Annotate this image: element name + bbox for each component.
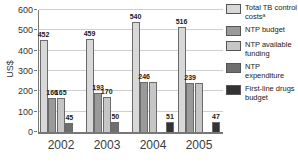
- y-tick-mark-400: [34, 50, 37, 51]
- bar-ntp-expenditure-2002: [65, 123, 73, 132]
- x-axis-label-2002: 2002: [38, 138, 84, 152]
- bar-ntp-budget-2003: [94, 93, 102, 132]
- bar-value-ntp-budget-2004: 246: [133, 73, 155, 80]
- y-tick-label-500: 500: [11, 25, 33, 35]
- legend-label-ntp-expenditure: NTP expenditure: [245, 62, 298, 80]
- x-axis-label-2005: 2005: [176, 138, 222, 152]
- bar-value-ntp-available-funding-2003: 170: [96, 88, 118, 95]
- bar-total-tb-control-costs-2002: [40, 40, 48, 132]
- legend-swatch-total-tb-control-costs: [226, 4, 241, 14]
- legend-item-total-tb-control-costs: Total TB control costsᵃ: [226, 3, 298, 21]
- bar-value-total-tb-control-costs-2002: 452: [33, 31, 55, 38]
- bar-value-total-tb-control-costs-2003: 459: [79, 30, 101, 37]
- x-axis-label-2003: 2003: [84, 138, 130, 152]
- legend-swatch-ntp-available-funding: [226, 41, 241, 51]
- chart-legend: Total TB control costsᵃNTP budgetNTP ava…: [226, 3, 298, 102]
- legend-swatch-ntp-expenditure: [226, 63, 241, 73]
- legend-item-first-line-drugs-budget: First-line drugs budget: [226, 84, 298, 102]
- bar-ntp-budget-2002: [48, 98, 56, 132]
- legend-swatch-first-line-drugs-budget: [226, 85, 241, 95]
- legend-label-total-tb-control-costs: Total TB control costsᵃ: [245, 3, 298, 21]
- bar-ntp-available-funding-2005: [195, 83, 203, 132]
- legend-item-ntp-expenditure: NTP expenditure: [226, 62, 298, 80]
- bar-first-line-drugs-budget-2004: [166, 122, 174, 132]
- bar-ntp-budget-2005: [186, 83, 194, 132]
- bar-value-total-tb-control-costs-2004: 540: [125, 13, 147, 20]
- bar-value-ntp-expenditure-2002: 45: [58, 114, 80, 121]
- legend-swatch-ntp-budget: [226, 26, 241, 36]
- legend-item-ntp-budget: NTP budget: [226, 25, 298, 36]
- bar-value-total-tb-control-costs-2005: 516: [171, 18, 193, 25]
- y-tick-mark-200: [34, 90, 37, 91]
- bar-value-ntp-budget-2005: 239: [179, 74, 201, 81]
- y-tick-label-400: 400: [11, 46, 33, 56]
- y-tick-label-300: 300: [11, 66, 33, 76]
- legend-label-ntp-available-funding: NTP available funding: [245, 40, 298, 58]
- bar-first-line-drugs-budget-2005: [212, 122, 220, 132]
- bar-value-ntp-available-funding-2002: 165: [50, 89, 72, 96]
- y-tick-mark-300: [34, 70, 37, 71]
- gridline-600: [39, 9, 223, 10]
- x-axis-label-2004: 2004: [130, 138, 176, 152]
- y-tick-mark-100: [34, 111, 37, 112]
- y-tick-mark-0: [34, 131, 37, 132]
- legend-item-ntp-available-funding: NTP available funding: [226, 40, 298, 58]
- bar-ntp-budget-2004: [140, 82, 148, 132]
- legend-label-first-line-drugs-budget: First-line drugs budget: [245, 84, 298, 102]
- y-tick-label-600: 600: [11, 5, 33, 15]
- legend-label-ntp-budget: NTP budget: [245, 25, 285, 34]
- y-tick-label-200: 200: [11, 86, 33, 96]
- y-tick-label-0: 0: [11, 127, 33, 137]
- y-tick-mark-600: [34, 9, 37, 10]
- bar-value-first-line-drugs-budget-2005: 47: [205, 113, 227, 120]
- bar-ntp-expenditure-2003: [111, 122, 119, 132]
- y-tick-mark-500: [34, 29, 37, 30]
- bar-ntp-available-funding-2004: [149, 82, 157, 132]
- y-tick-label-100: 100: [11, 107, 33, 117]
- bar-value-ntp-expenditure-2003: 50: [104, 113, 126, 120]
- tb-financing-bar-chart: US$ Total TB control costsᵃNTP budgetNTP…: [0, 0, 298, 162]
